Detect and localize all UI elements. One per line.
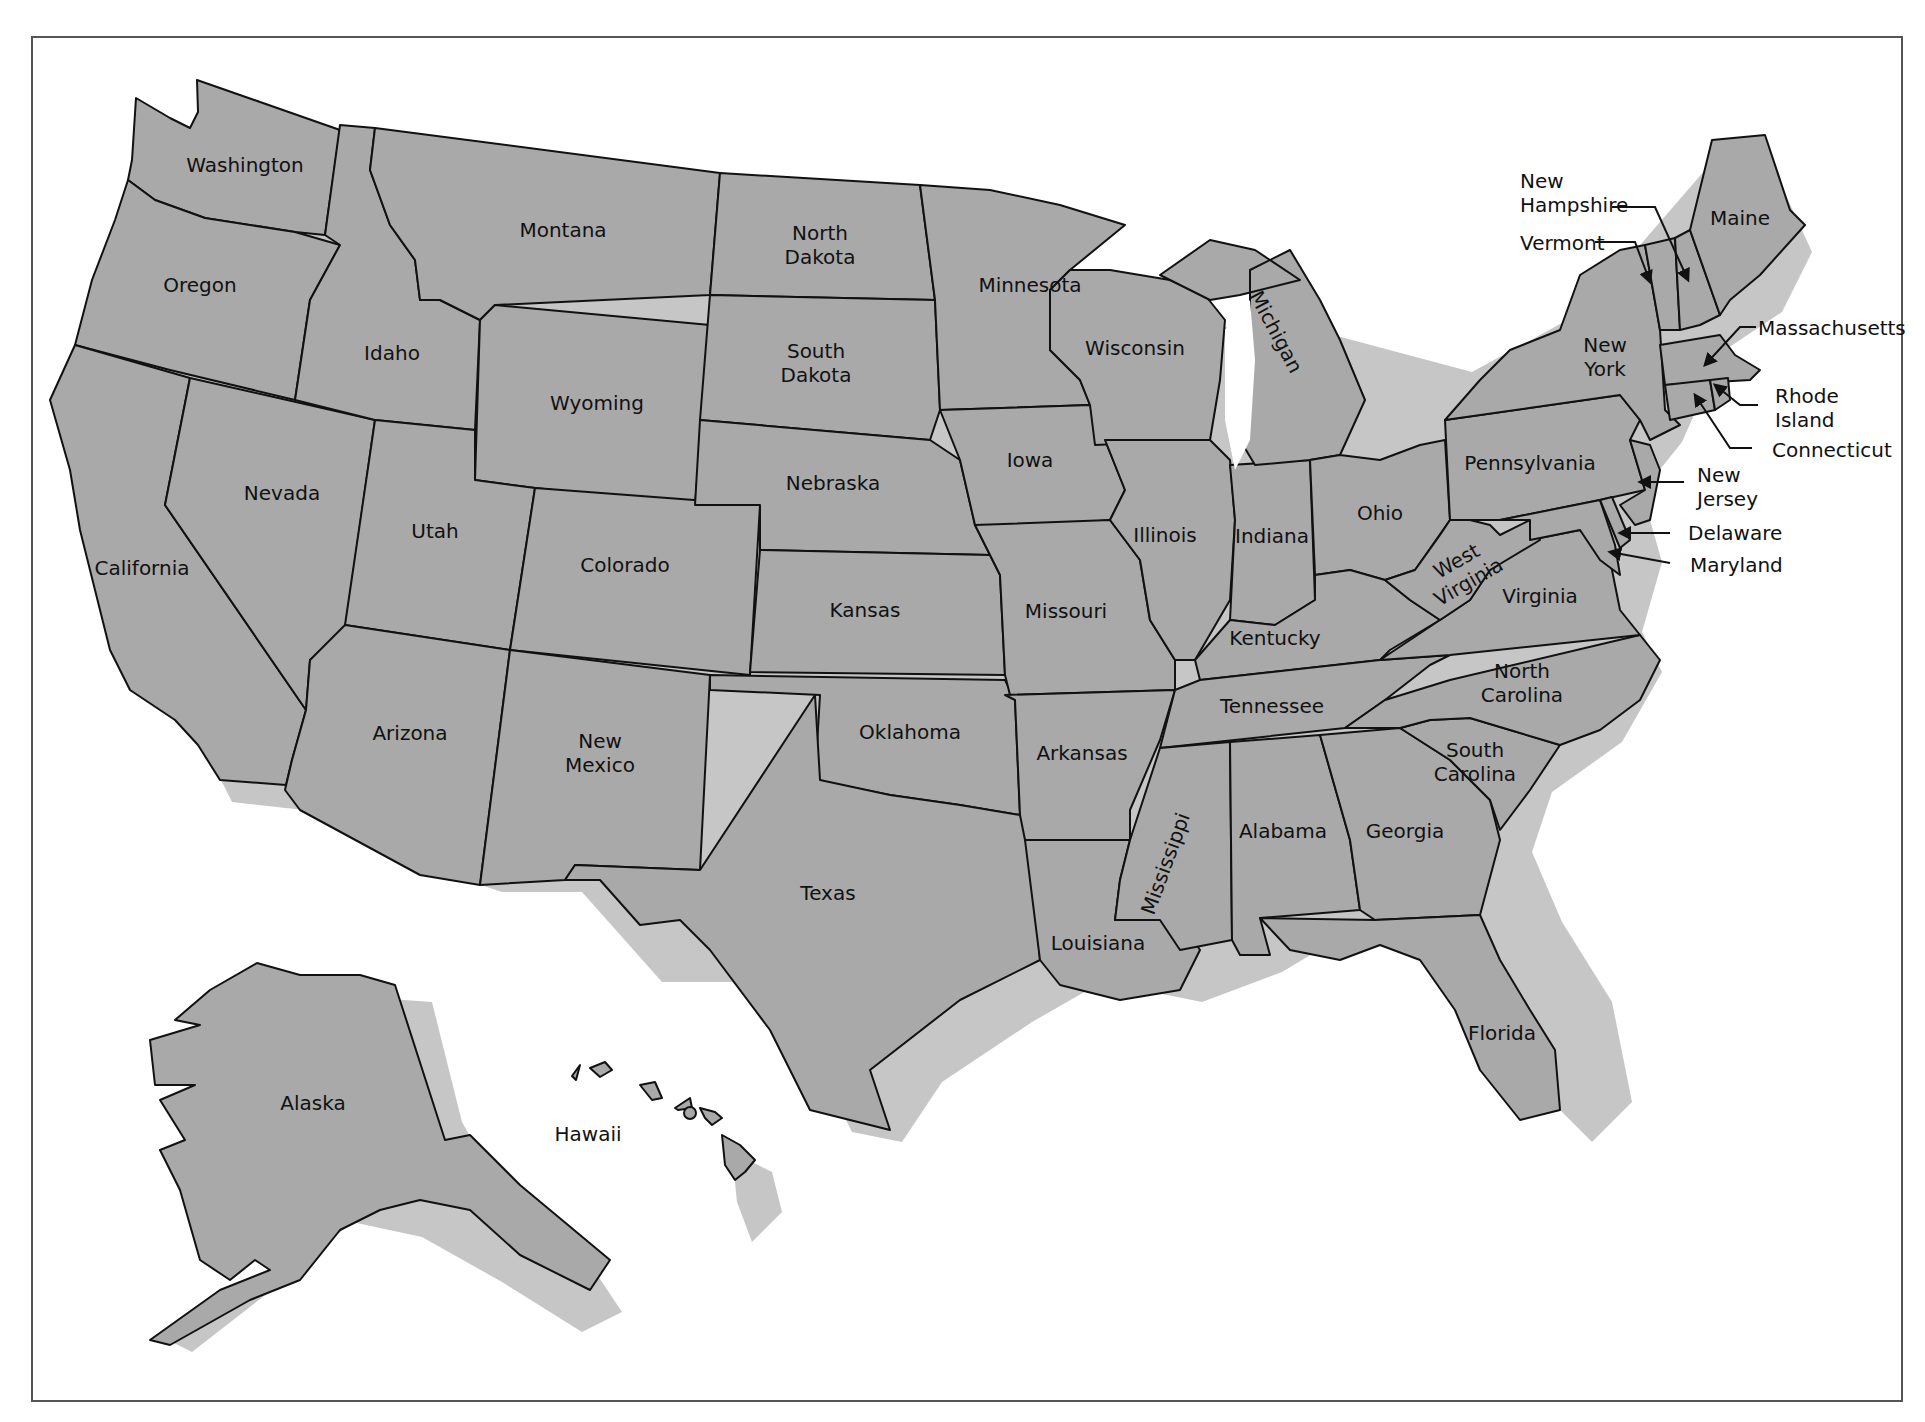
label-colorado: Colorado — [580, 553, 669, 577]
label-rhode-island: RhodeIsland — [1775, 384, 1839, 432]
label-pennsylvania: Pennsylvania — [1464, 451, 1595, 475]
state-arizona[interactable] — [285, 625, 510, 885]
label-massachusetts: Massachusetts — [1758, 316, 1906, 340]
label-arizona: Arizona — [372, 721, 447, 745]
label-virginia: Virginia — [1502, 584, 1577, 608]
label-minnesota: Minnesota — [978, 273, 1081, 297]
label-delaware: Delaware — [1688, 521, 1782, 545]
label-montana: Montana — [519, 218, 606, 242]
label-georgia: Georgia — [1366, 819, 1444, 843]
label-nevada: Nevada — [244, 481, 320, 505]
label-wisconsin: Wisconsin — [1085, 336, 1185, 360]
label-new-jersey: NewJersey — [1695, 463, 1758, 511]
label-north-dakota: NorthDakota — [785, 221, 856, 269]
label-south-carolina: SouthCarolina — [1434, 738, 1516, 786]
label-washington: Washington — [186, 153, 304, 177]
us-map: WashingtonOregonCaliforniaNevadaIdahoMon… — [0, 0, 1925, 1422]
label-iowa: Iowa — [1007, 448, 1054, 472]
label-maryland: Maryland — [1690, 553, 1783, 577]
label-oregon: Oregon — [163, 273, 236, 297]
state-colorado[interactable] — [510, 488, 760, 675]
label-missouri: Missouri — [1025, 599, 1107, 623]
hawaii-islands[interactable] — [572, 1062, 755, 1180]
label-louisiana: Louisiana — [1051, 931, 1145, 955]
label-vermont: Vermont — [1520, 231, 1605, 255]
label-ohio: Ohio — [1357, 501, 1403, 525]
label-indiana: Indiana — [1235, 524, 1309, 548]
label-oklahoma: Oklahoma — [859, 720, 961, 744]
label-texas: Texas — [799, 881, 855, 905]
label-hawaii: Hawaii — [554, 1122, 621, 1146]
label-maine: Maine — [1710, 206, 1770, 230]
label-idaho: Idaho — [364, 341, 420, 365]
label-florida: Florida — [1468, 1021, 1536, 1045]
label-kentucky: Kentucky — [1229, 626, 1320, 650]
label-tennessee: Tennessee — [1219, 694, 1324, 718]
label-new-hampshire: NewHampshire — [1520, 169, 1628, 217]
label-connecticut: Connecticut — [1772, 438, 1892, 462]
label-nebraska: Nebraska — [786, 471, 880, 495]
label-kansas: Kansas — [830, 598, 901, 622]
label-wyoming: Wyoming — [550, 391, 644, 415]
label-alabama: Alabama — [1239, 819, 1327, 843]
label-south-dakota: SouthDakota — [781, 339, 852, 387]
label-utah: Utah — [411, 519, 458, 543]
label-arkansas: Arkansas — [1036, 741, 1127, 765]
label-new-york: NewYork — [1583, 333, 1627, 381]
states — [50, 80, 1805, 1345]
label-california: California — [95, 556, 190, 580]
label-alaska: Alaska — [280, 1091, 345, 1115]
label-illinois: Illinois — [1133, 523, 1196, 547]
